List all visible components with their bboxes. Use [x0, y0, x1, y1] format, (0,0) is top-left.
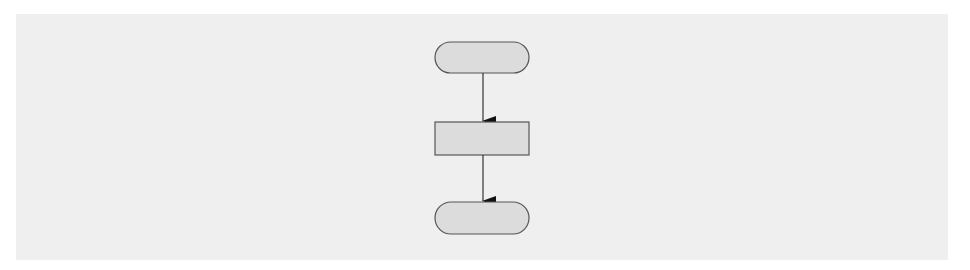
process-node	[435, 122, 529, 155]
start-node	[435, 42, 529, 73]
flowchart	[0, 0, 970, 270]
end-node	[435, 202, 529, 234]
